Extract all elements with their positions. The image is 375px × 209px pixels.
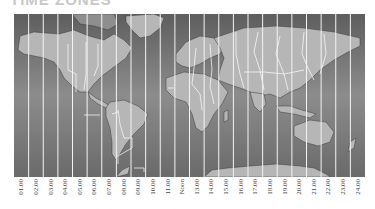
- timezone-labels: 01.0002.0003.0004.0005.0006.0007.0008.00…: [14, 179, 365, 207]
- page-title: TIME ZONES: [10, 0, 112, 8]
- world-time-zone-map: [14, 14, 365, 177]
- world-map-svg: [14, 14, 365, 177]
- madagascar: [224, 110, 228, 122]
- timezone-label: 01.00: [16, 179, 26, 207]
- timezone-label: 14.00: [206, 179, 216, 207]
- timezone-label: Noon: [177, 179, 187, 207]
- timezone-label: 18.00: [265, 179, 275, 207]
- timezone-label: 02.00: [31, 179, 41, 207]
- timezone-label: 06.00: [89, 179, 99, 207]
- timezone-label: 08.00: [119, 179, 129, 207]
- timezone-label: 20.00: [294, 179, 304, 207]
- timezone-label: 03.00: [46, 179, 56, 207]
- timezone-label: 13.00: [192, 179, 202, 207]
- timezone-label: 16.00: [236, 179, 246, 207]
- timezone-label: 04.00: [60, 179, 70, 207]
- timezone-label: 11.00: [163, 179, 173, 207]
- timezone-label: 05.00: [75, 179, 85, 207]
- timezone-label: 17.00: [250, 179, 260, 207]
- timezone-label: 10.00: [148, 179, 158, 207]
- timezone-label: 24.00: [353, 179, 363, 207]
- timezone-label: 19.00: [280, 179, 290, 207]
- timezone-label: 09.00: [133, 179, 143, 207]
- timezone-label: 21.00: [309, 179, 319, 207]
- timezone-label: 15.00: [221, 179, 231, 207]
- timezone-label: 22.00: [323, 179, 333, 207]
- timezone-label: 07.00: [104, 179, 114, 207]
- timezone-label: 23.00: [338, 179, 348, 207]
